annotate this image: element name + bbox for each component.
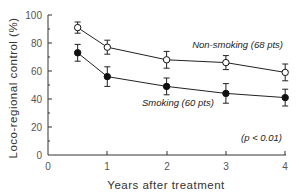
y-tick-40: 40 [31, 94, 43, 105]
x-tick-3: 3 [223, 161, 229, 172]
y-tick-100: 100 [25, 10, 42, 21]
series-layer [74, 22, 288, 106]
x-axis-title: Years after treatment [107, 179, 225, 191]
y-tick-0: 0 [36, 150, 42, 161]
filled-circle-marker [282, 94, 288, 100]
label-non-smoking: Non-smoking (68 pts) [192, 39, 283, 50]
y-tick-20: 20 [31, 122, 43, 133]
open-circle-marker [74, 24, 80, 30]
y-axis-title: Loco-regional control (%) [7, 18, 19, 159]
label-smoking: Smoking (60 pts) [142, 97, 214, 108]
x-tick-4: 4 [282, 161, 288, 172]
open-circle-marker [223, 59, 229, 65]
filled-circle-marker [163, 83, 169, 89]
x-tick-1: 1 [104, 161, 110, 172]
x-tick-labels: 0 1 2 3 4 [45, 161, 288, 172]
p-value-annotation: (p < 0.01) [241, 132, 282, 143]
series-non-smoking [74, 22, 288, 81]
open-circle-marker [163, 57, 169, 63]
filled-circle-marker [74, 50, 80, 56]
y-tick-60: 60 [31, 66, 43, 77]
filled-circle-marker [223, 90, 229, 96]
filled-circle-marker [104, 73, 110, 79]
chart: 0 20 40 60 80 100 0 1 2 3 4 Years after … [0, 0, 299, 196]
x-tick-0: 0 [45, 161, 51, 172]
open-circle-marker [282, 69, 288, 75]
open-circle-marker [104, 44, 110, 50]
y-tick-80: 80 [31, 38, 43, 49]
x-tick-2: 2 [164, 161, 170, 172]
y-tick-labels: 0 20 40 60 80 100 [25, 10, 42, 161]
